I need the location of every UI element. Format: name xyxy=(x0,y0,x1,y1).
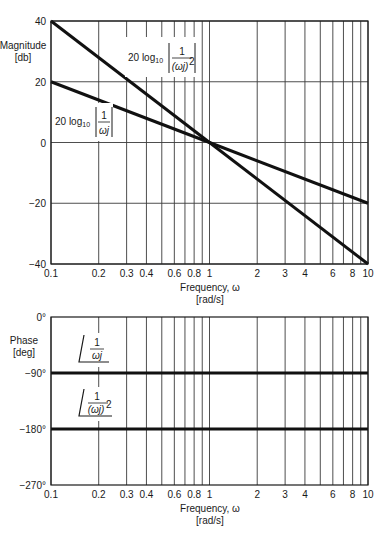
phase-x-tick-label: 2 xyxy=(254,489,260,500)
magnitude-x-tick-label: 0.2 xyxy=(92,268,106,279)
svg-text:1: 1 xyxy=(94,337,100,348)
phase-x-tick-label: 0.6 xyxy=(167,489,181,500)
phase-chart: 0°−90°−180°−270° 0.10.20.30.40.60.812346… xyxy=(10,312,374,526)
annotation-second-order-phase: 1 (ωj) 2 xyxy=(78,387,118,421)
magnitude-chart: 40200−20−40 0.10.20.30.40.60.812346810 M… xyxy=(0,16,374,305)
magnitude-x-tick-label: 0.4 xyxy=(139,268,153,279)
phase-x-tick-label: 8 xyxy=(350,489,356,500)
magnitude-x-tick-labels: 0.10.20.30.40.60.812346810 xyxy=(44,268,374,279)
svg-text:2: 2 xyxy=(189,56,195,67)
magnitude-x-tick-label: 0.3 xyxy=(120,268,134,279)
phase-x-axis-label: Frequency, ω xyxy=(180,503,240,514)
magnitude-x-tick-label: 0.1 xyxy=(44,268,58,279)
annotation-first-order-phase: 1 ωj xyxy=(78,333,112,367)
magnitude-x-axis-label: Frequency, ω xyxy=(180,282,240,293)
phase-y-tick-label: −90° xyxy=(25,368,46,379)
phase-x-tick-label: 3 xyxy=(282,489,288,500)
svg-text:1: 1 xyxy=(179,46,185,57)
svg-text:2: 2 xyxy=(106,399,112,410)
magnitude-y-tick-label: −20 xyxy=(29,198,46,209)
svg-text:ωj: ωj xyxy=(99,125,110,136)
phase-x-tick-labels: 0.10.20.30.40.60.812346810 xyxy=(44,489,374,500)
bode-plot: 40200−20−40 0.10.20.30.40.60.812346810 M… xyxy=(0,0,388,540)
svg-text:(ωj): (ωj) xyxy=(172,61,189,72)
phase-y-axis-units: [deg] xyxy=(13,347,35,358)
magnitude-y-tick-label: 0 xyxy=(40,138,46,149)
magnitude-x-tick-label: 0.8 xyxy=(187,268,201,279)
magnitude-y-axis-units: [db] xyxy=(15,52,32,63)
magnitude-x-tick-label: 4 xyxy=(302,268,308,279)
magnitude-x-axis-units: [rad/s] xyxy=(196,294,224,305)
magnitude-x-tick-label: 0.6 xyxy=(167,268,181,279)
magnitude-x-tick-label: 3 xyxy=(282,268,288,279)
magnitude-y-tick-label: 20 xyxy=(35,77,47,88)
phase-x-tick-label: 0.3 xyxy=(120,489,134,500)
annotation-first-order-magnitude: 20 log10 1 ωj xyxy=(53,103,113,141)
phase-x-tick-label: 1 xyxy=(207,489,213,500)
svg-text:ωj: ωj xyxy=(92,350,103,361)
magnitude-x-tick-label: 1 xyxy=(207,268,213,279)
phase-x-tick-label: 0.1 xyxy=(44,489,58,500)
phase-y-tick-label: −180° xyxy=(19,424,46,435)
phase-x-tick-label: 6 xyxy=(330,489,336,500)
svg-text:(ωj): (ωj) xyxy=(88,404,105,415)
phase-x-tick-label: 0.4 xyxy=(139,489,153,500)
phase-y-tick-label: −270° xyxy=(19,480,46,491)
magnitude-y-tick-label: 40 xyxy=(35,16,47,27)
phase-y-axis-label: Phase xyxy=(10,335,39,346)
svg-text:1: 1 xyxy=(101,110,107,121)
phase-x-axis-units: [rad/s] xyxy=(196,515,224,526)
magnitude-x-tick-label: 10 xyxy=(362,268,374,279)
magnitude-x-tick-label: 2 xyxy=(254,268,260,279)
phase-x-tick-label: 4 xyxy=(302,489,308,500)
magnitude-x-tick-label: 8 xyxy=(350,268,356,279)
phase-x-tick-label: 0.8 xyxy=(187,489,201,500)
magnitude-y-tick-labels: 40200−20−40 xyxy=(29,16,46,270)
svg-text:1: 1 xyxy=(94,391,100,402)
magnitude-x-tick-label: 6 xyxy=(330,268,336,279)
annotation-second-order-magnitude: 20 log10 1 (ωj) 2 xyxy=(125,37,199,77)
phase-y-tick-label: 0° xyxy=(36,312,46,323)
phase-x-tick-label: 10 xyxy=(362,489,374,500)
phase-x-tick-label: 0.2 xyxy=(92,489,106,500)
magnitude-y-axis-label: Magnitude xyxy=(0,40,47,51)
